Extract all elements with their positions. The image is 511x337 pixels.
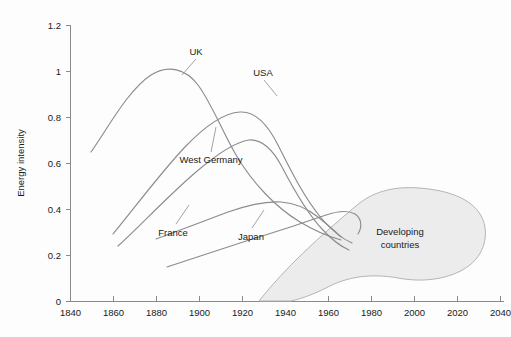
series-labels: UK USA West Germany France Japan: [158, 46, 273, 242]
series-curve-usa: [113, 112, 352, 243]
leader-line-france: [176, 205, 189, 224]
region-label-line-1: Developing: [376, 226, 424, 237]
x-tick-label-2020: 2020: [447, 307, 468, 318]
y-tick-label-1.2: 1.2: [48, 20, 61, 31]
leader-line-west-germany: [211, 127, 216, 152]
series-label-west-germany: West Germany: [179, 154, 242, 165]
series-label-france: France: [158, 227, 188, 238]
leader-line-uk: [182, 59, 196, 75]
x-tick-label-1900: 1900: [189, 307, 210, 318]
x-tick-label-1940: 1940: [275, 307, 296, 318]
y-tick-label-0.4: 0.4: [48, 204, 61, 215]
region-developing-countries: [259, 188, 485, 301]
x-tick-label-1860: 1860: [103, 307, 124, 318]
region-label-line-2: countries: [381, 239, 420, 250]
series-label-japan: Japan: [238, 231, 264, 242]
x-tick-label-1920: 1920: [232, 307, 253, 318]
x-tick-label-1840: 1840: [60, 307, 81, 318]
y-axis-title: Energy intensity: [15, 129, 26, 197]
leader-line-japan: [252, 210, 264, 228]
series-label-uk: UK: [189, 46, 203, 57]
x-tick-label-1880: 1880: [146, 307, 167, 318]
y-axis-ticks: 1.2 1 0.8 0.6 0.4 0.2 0: [48, 20, 71, 307]
x-tick-label-1960: 1960: [318, 307, 339, 318]
y-tick-label-0.8: 0.8: [48, 112, 61, 123]
leader-line-usa: [264, 80, 277, 96]
x-tick-label-2040: 2040: [490, 307, 511, 318]
y-tick-label-1: 1: [56, 66, 61, 77]
x-tick-label-1980: 1980: [361, 307, 382, 318]
series-label-usa: USA: [253, 67, 273, 78]
y-tick-label-0.2: 0.2: [48, 250, 61, 261]
x-tick-label-2000: 2000: [404, 307, 425, 318]
y-tick-label-0.6: 0.6: [48, 158, 61, 169]
energy-intensity-chart: 1.2 1 0.8 0.6 0.4 0.2 0 1840 1860 1880 1…: [0, 0, 511, 337]
chart-canvas: 1.2 1 0.8 0.6 0.4 0.2 0 1840 1860 1880 1…: [0, 0, 511, 337]
y-tick-label-0: 0: [56, 296, 61, 307]
